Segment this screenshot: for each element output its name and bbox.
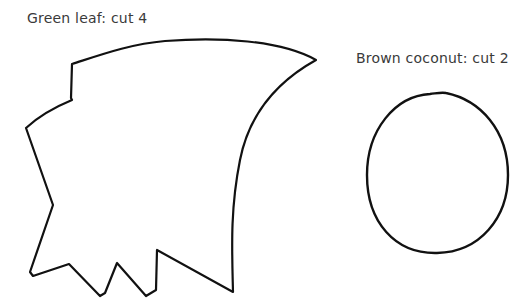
cutout-shapes: [0, 0, 532, 301]
leaf-outline: [26, 39, 316, 296]
coconut-outline: [367, 93, 508, 253]
